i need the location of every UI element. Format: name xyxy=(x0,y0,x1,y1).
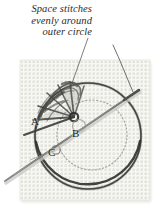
point-label-b: B xyxy=(72,128,79,139)
caption-line-1: Space stitches xyxy=(0,3,92,15)
point-label-c: C xyxy=(48,147,55,158)
caption-line-3: outer circle xyxy=(0,26,92,38)
point-label-a: A xyxy=(31,116,39,127)
caption-line-2: evenly around xyxy=(0,15,92,27)
instruction-caption: Space stitches evenly around outer circl… xyxy=(0,3,92,38)
figure-root: Space stitches evenly around outer circl… xyxy=(0,0,158,207)
